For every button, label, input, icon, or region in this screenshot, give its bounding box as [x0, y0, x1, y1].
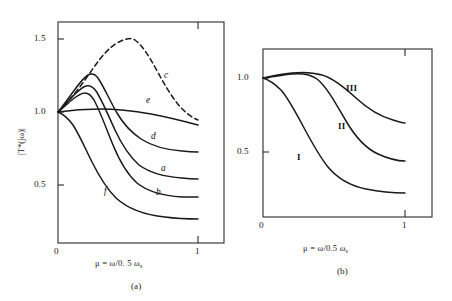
panel-a: 1.5 1.0 0.5 0 1 |T*(jω)| μ = ω/0. 5 ωs (… — [0, 0, 240, 301]
panel-b-plot — [230, 0, 452, 301]
panel-a-curvelabel-a: a — [161, 163, 166, 173]
panel-a-curvelabel-f: f — [104, 186, 107, 196]
panel-b-xlabel-main: μ = ω/0.5 ω — [303, 243, 346, 253]
figure-container: 1.5 1.0 0.5 0 1 |T*(jω)| μ = ω/0. 5 ωs (… — [0, 0, 452, 301]
panel-a-yticklabel-1.5: 1.5 — [34, 33, 45, 43]
panel-a-xticklabel-1: 1 — [195, 246, 200, 256]
panel-b-xticklabel-1: 1 — [402, 220, 407, 230]
panel-b-xlabel-subscript: s — [346, 247, 349, 254]
panel-b-curvelabel-II: II — [338, 121, 346, 131]
panel-b-caption: (b) — [337, 266, 348, 276]
panel-a-yticklabel-1.0: 1.0 — [34, 106, 45, 116]
panel-a-curve-d — [58, 74, 198, 152]
panel-b-curve-I — [263, 78, 405, 193]
panel-a-xlabel-main: μ = ω/0. 5 ω — [95, 258, 140, 268]
panel-b-xlabel: μ = ω/0.5 ωs — [303, 243, 348, 254]
panel-a-xlabel-subscript: s — [140, 262, 143, 269]
panel-b-curve-III — [263, 72, 405, 123]
panel-a-ylabel: |T*(jω)| — [16, 128, 26, 155]
panel-a-xticklabel-0: 0 — [54, 246, 59, 256]
panel-a-curve-b — [58, 93, 198, 197]
panel-b-yticklabel-1.0: 1.0 — [237, 72, 248, 82]
panel-b-curvelabel-III: III — [346, 83, 357, 93]
panel-a-curvelabel-e: e — [146, 95, 150, 105]
panel-a-curve-c — [58, 39, 198, 120]
panel-b-yticklabel-0.5: 0.5 — [237, 146, 248, 156]
panel-b-curvelabel-I: I — [297, 152, 301, 162]
panel-a-curve-e — [58, 109, 198, 125]
panel-a-curvelabel-d: d — [151, 131, 156, 141]
panel-b: 1.0 0.5 0 1 μ = ω/0.5 ωs (b) I II III — [230, 0, 452, 301]
panel-a-curvelabel-c: c — [164, 70, 168, 80]
panel-a-curve-a — [58, 86, 198, 179]
panel-a-xlabel: μ = ω/0. 5 ωs — [95, 258, 143, 269]
panel-a-plot — [0, 0, 240, 301]
panel-a-caption: (a) — [131, 281, 141, 291]
panel-a-frame — [58, 22, 224, 243]
panel-a-yticklabel-0.5: 0.5 — [34, 179, 45, 189]
panel-a-curvelabel-b: b — [156, 187, 161, 197]
panel-b-xticklabel-0: 0 — [259, 220, 264, 230]
